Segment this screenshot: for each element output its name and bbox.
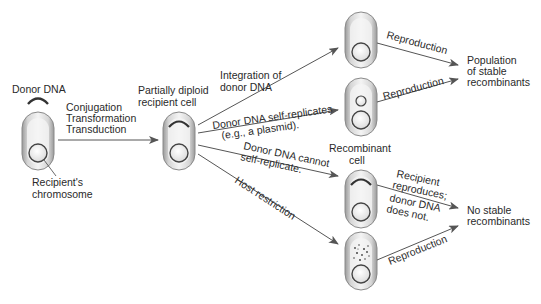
partial-diploid-label-1: Partially diploid: [138, 84, 209, 96]
restricted-cell: [345, 232, 377, 290]
no-stable-outcome-label-2: recombinants: [467, 215, 530, 227]
donor-dna-fragment-icon: [28, 99, 48, 105]
partially-diploid-cell: [163, 112, 195, 170]
recombination-diagram: Donor DNA Recipient's chromosome Conjuga…: [0, 0, 541, 304]
recipient-chromosome-icon: [352, 111, 370, 129]
nonreplicating-donor-cell: [345, 170, 377, 228]
recipient-chromosome-icon: [29, 144, 47, 162]
stable-outcome-label-3: recombinants: [467, 76, 530, 88]
reproduction-label-1: Reproduction: [385, 28, 449, 56]
donor-dna-label: Donor DNA: [12, 83, 66, 95]
path-label-integration-2: donor DNA: [220, 81, 272, 93]
recipient-chromosome-icon: [352, 265, 370, 283]
reproduction-label-3: Reproduction: [386, 232, 449, 267]
recipient-cell: [22, 112, 54, 170]
integrated-cell: [345, 12, 377, 68]
path-label-host-restriction: Host restriction: [233, 174, 298, 222]
partial-diploid-label-2: recipient cell: [138, 96, 196, 108]
path-label-integration-1: Integration of: [220, 69, 281, 81]
chromosome-label-2: chromosome: [32, 188, 93, 200]
recombinant-cell-label-2: cell: [349, 154, 365, 166]
reproduction-label-2: Reproduction: [381, 74, 445, 102]
chromosome-label-1: Recipient's: [32, 176, 83, 188]
plasmid-cell: [345, 78, 377, 136]
recombinant-cell-label-1: Recombinant: [329, 142, 391, 154]
recipient-chromosome-icon: [352, 203, 370, 221]
transfer-label-transduction: Transduction: [66, 123, 126, 135]
plasmid-icon: [356, 96, 366, 106]
recipient-chromosome-icon: [170, 144, 188, 162]
recombinant-chromosome-icon: [352, 43, 370, 61]
